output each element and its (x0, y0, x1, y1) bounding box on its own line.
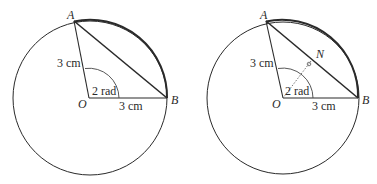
point-label-b: B (362, 93, 370, 107)
radius-ob-label: 3 cm (119, 99, 143, 113)
radius-ob-label: 3 cm (312, 99, 336, 113)
angle-label: 2 rad (92, 84, 116, 98)
point-label-o: O (78, 97, 87, 111)
diagram-svg: A B O 3 cm 3 cm 2 rad A B O N 3 cm 3 cm … (0, 0, 377, 184)
point-label-a: A (66, 8, 75, 22)
figure-right: A B O N 3 cm 3 cm 2 rad (207, 8, 370, 174)
point-label-o: O (272, 97, 281, 111)
diagram-stage: A B O 3 cm 3 cm 2 rad A B O N 3 cm 3 cm … (0, 0, 377, 184)
chord-ab (266, 21, 358, 98)
point-label-b: B (171, 93, 179, 107)
figure-left: A B O 3 cm 3 cm 2 rad (13, 8, 179, 175)
chord-ab (74, 21, 167, 98)
radius-oa-label: 3 cm (57, 56, 81, 70)
point-label-a: A (259, 8, 268, 22)
angle-label: 2 rad (285, 84, 309, 98)
point-label-n: N (315, 47, 325, 61)
radius-oa-label: 3 cm (250, 56, 274, 70)
